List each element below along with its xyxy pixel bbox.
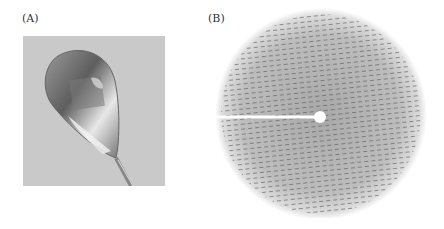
diffraction-pattern [214,4,428,218]
panel-a-label: (A) [22,12,39,25]
crystal-loop-photo [23,36,165,186]
